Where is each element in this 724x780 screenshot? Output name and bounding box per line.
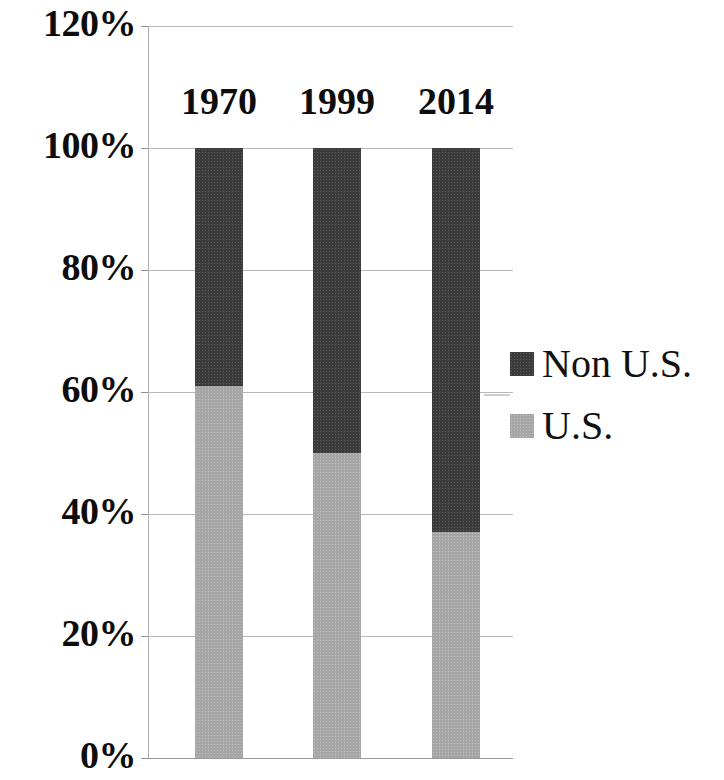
y-axis-label-80: 80% — [0, 248, 136, 286]
category-label-1970: 1970 — [159, 81, 279, 121]
category-label-1999: 1999 — [277, 81, 397, 121]
bar-segment-2014-us[interactable] — [432, 532, 480, 758]
y-axis-label-60: 60% — [0, 370, 136, 408]
y-axis-label-100: 100% — [0, 126, 136, 164]
legend-item-us[interactable]: U.S. — [510, 395, 724, 457]
legend-swatch-non-us-icon — [510, 352, 534, 376]
gridline-120 — [148, 26, 513, 27]
bar-segment-2014-non-us[interactable] — [432, 148, 480, 532]
category-label-2014: 2014 — [396, 81, 516, 121]
chart-legend: Non U.S. U.S. — [510, 333, 724, 457]
bar-segment-1970-us[interactable] — [195, 386, 243, 758]
legend-swatch-us-icon — [510, 414, 534, 438]
legend-item-non-us[interactable]: Non U.S. — [510, 333, 724, 395]
legend-label-non-us: Non U.S. — [542, 343, 692, 385]
y-axis-labels: 120% 100% 80% 60% 40% 20% 0% — [0, 0, 136, 780]
chart-figure: 120% 100% 80% 60% 40% 20% 0% — [0, 0, 724, 780]
gridline-0 — [148, 758, 513, 759]
y-axis-label-120: 120% — [0, 4, 136, 42]
y-axis-label-20: 20% — [0, 614, 136, 652]
y-axis-label-40: 40% — [0, 492, 136, 530]
y-axis-label-0: 0% — [0, 736, 136, 774]
bar-segment-1999-us[interactable] — [313, 453, 361, 758]
plot-area: 1970 1999 2014 — [148, 26, 513, 758]
scan-artifact — [484, 394, 510, 396]
bar-segment-1999-non-us[interactable] — [313, 148, 361, 453]
bar-segment-1970-non-us[interactable] — [195, 148, 243, 386]
legend-label-us: U.S. — [542, 405, 613, 447]
